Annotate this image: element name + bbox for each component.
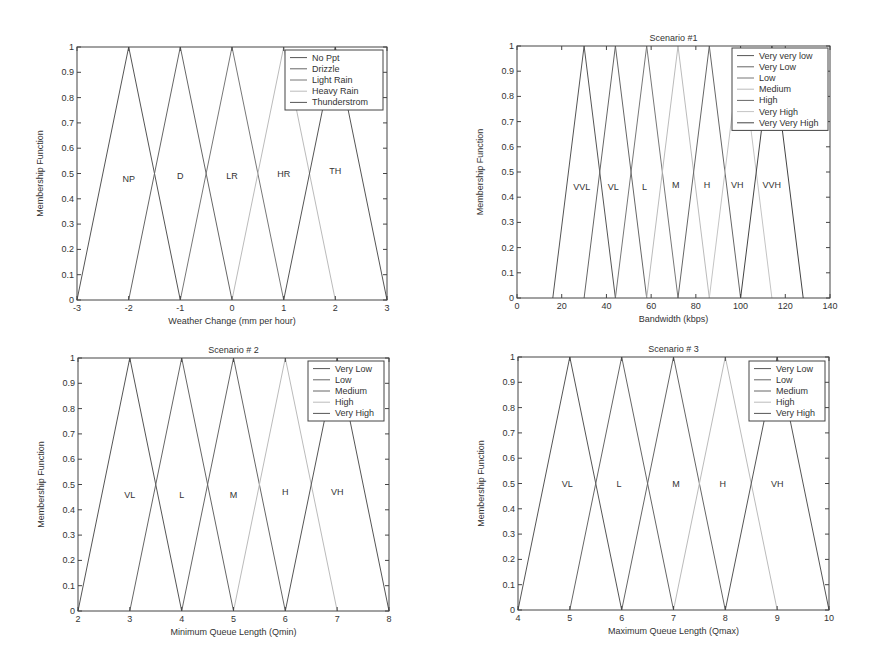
legend-entry: Light Rain: [312, 75, 353, 85]
x-tick-label: 7: [671, 613, 676, 623]
chart-title: Scenario #1: [649, 33, 697, 43]
mf-label: H: [282, 487, 289, 497]
series-line-l: [130, 358, 234, 611]
y-tick-label: 0.8: [501, 91, 514, 101]
legend-entry: Very High: [776, 408, 815, 418]
mf-label: VL: [562, 479, 573, 489]
x-tick-label: 8: [723, 613, 728, 623]
y-tick-label: 0.9: [501, 66, 514, 76]
mf-label: TH: [329, 166, 341, 176]
x-tick-label: 8: [386, 614, 391, 624]
legend-entry: Low: [759, 73, 776, 83]
y-tick-label: 0.7: [62, 429, 75, 439]
y-tick-label: 0.8: [62, 404, 75, 414]
y-tick-label: 0.5: [501, 167, 514, 177]
y-tick-label: 0.1: [62, 581, 75, 591]
legend: No PptDrizzleLight RainHeavy RainThunder…: [285, 50, 383, 110]
figure-canvas: -3-2-1012300.10.20.30.40.50.60.70.80.91W…: [0, 0, 873, 670]
x-tick-label: 60: [646, 301, 656, 311]
legend-entry: Heavy Rain: [312, 86, 359, 96]
mf-label: L: [617, 479, 622, 489]
x-tick-label: -1: [176, 303, 184, 313]
series-line-vl: [584, 46, 647, 298]
y-tick-label: 0.5: [61, 169, 74, 179]
x-tick-label: 9: [775, 613, 780, 623]
x-tick-label: 6: [283, 614, 288, 624]
mf-label: D: [177, 171, 184, 181]
x-tick-label: 2: [75, 614, 80, 624]
legend-entry: Low: [776, 375, 793, 385]
x-tick-label: 100: [733, 301, 748, 311]
x-tick-label: 4: [179, 614, 184, 624]
legend-entry: Very Low: [776, 364, 814, 374]
legend: Very very lowVery LowLowMediumHighVery H…: [732, 48, 828, 130]
y-tick-label: 0.8: [502, 403, 515, 413]
mf-label: VVL: [573, 182, 590, 192]
x-tick-label: 10: [824, 613, 834, 623]
y-tick-label: 0.7: [61, 118, 74, 128]
y-axis-label: Membership Function: [36, 441, 46, 528]
mf-label: H: [719, 479, 726, 489]
y-tick-label: 0.7: [501, 117, 514, 127]
y-tick-label: 0: [69, 295, 74, 305]
legend-entry: Very Very High: [759, 118, 819, 128]
legend: Very LowLowMediumHighVery High: [308, 361, 384, 421]
mf-label: VL: [608, 182, 619, 192]
x-tick-label: 7: [335, 614, 340, 624]
y-tick-label: 0.8: [61, 93, 74, 103]
legend-entry: Thunderstrom: [312, 97, 368, 107]
mf-label: LR: [226, 171, 238, 181]
x-tick-label: 20: [557, 301, 567, 311]
series-line-l: [570, 357, 674, 610]
mf-label: VH: [771, 479, 784, 489]
chart-title: Scenario # 3: [648, 344, 699, 354]
y-tick-label: 0.4: [501, 192, 514, 202]
legend-entry: Very High: [335, 408, 374, 418]
y-tick-label: 0.1: [501, 268, 514, 278]
y-tick-label: 0.6: [61, 143, 74, 153]
x-axis-label: Minimum Queue Length (Qmin): [170, 627, 296, 637]
x-tick-label: 1: [281, 303, 286, 313]
chart-panel-3: 234567800.10.20.30.40.50.60.70.80.91Mini…: [36, 345, 392, 637]
legend-entry: Medium: [335, 386, 367, 396]
y-tick-label: 0.4: [502, 504, 515, 514]
chart-panel-2: 02040608010012014000.10.20.30.40.50.60.7…: [475, 33, 838, 324]
legend-entry: Very High: [759, 107, 798, 117]
y-tick-label: 0.2: [61, 244, 74, 254]
y-tick-label: 0.5: [502, 479, 515, 489]
legend-entry: High: [759, 95, 778, 105]
x-tick-label: 5: [567, 613, 572, 623]
chart-title: Scenario # 2: [208, 345, 259, 355]
mf-label: H: [704, 180, 711, 190]
y-tick-label: 0.1: [502, 580, 515, 590]
y-tick-label: 0.2: [502, 554, 515, 564]
x-tick-label: 140: [822, 301, 837, 311]
mf-label: HR: [277, 169, 290, 179]
y-tick-label: 0.2: [62, 555, 75, 565]
y-tick-label: 0.3: [501, 217, 514, 227]
y-tick-label: 1: [509, 41, 514, 51]
y-tick-label: 0.3: [61, 219, 74, 229]
x-tick-label: 3: [127, 614, 132, 624]
y-tick-label: 0.4: [62, 505, 75, 515]
legend-entry: Very Low: [759, 62, 797, 72]
legend-entry: Medium: [776, 386, 808, 396]
legend-entry: Drizzle: [312, 64, 340, 74]
y-tick-label: 0.4: [61, 194, 74, 204]
y-tick-label: 0: [509, 293, 514, 303]
y-tick-label: 0.6: [62, 454, 75, 464]
mf-label: M: [672, 479, 680, 489]
y-tick-label: 0.6: [501, 142, 514, 152]
mf-label: VL: [124, 490, 135, 500]
x-tick-label: 40: [601, 301, 611, 311]
x-tick-label: 6: [619, 613, 624, 623]
y-tick-label: 0.6: [502, 453, 515, 463]
series-line-l: [615, 46, 678, 298]
chart-panel-1: -3-2-1012300.10.20.30.40.50.60.70.80.91W…: [35, 42, 390, 326]
x-tick-label: 2: [333, 303, 338, 313]
y-tick-label: 0.7: [502, 428, 515, 438]
mf-label: L: [179, 490, 184, 500]
y-tick-label: 0.1: [61, 270, 74, 280]
series-line-m: [182, 358, 286, 611]
y-axis-label: Membership Function: [475, 129, 485, 216]
